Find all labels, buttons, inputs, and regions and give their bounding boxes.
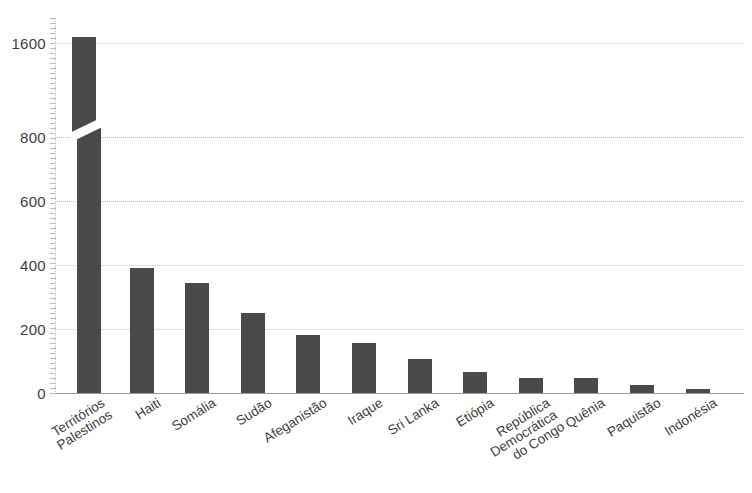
gridline-400 bbox=[55, 265, 744, 266]
x-axis-baseline bbox=[55, 393, 744, 394]
bar-0-lower-segment bbox=[77, 127, 101, 393]
gridline-800 bbox=[55, 137, 744, 138]
bar-8 bbox=[519, 378, 543, 393]
y-axis-tick-label-800: 800 bbox=[2, 129, 46, 146]
bar-2 bbox=[185, 283, 209, 393]
bar-6 bbox=[408, 359, 432, 393]
y-axis-line bbox=[55, 18, 56, 394]
y-axis-tick-label-200: 200 bbox=[2, 321, 46, 338]
y-axis-tick-label-1600: 1600 bbox=[2, 35, 46, 52]
bar-0-upper-segment bbox=[72, 37, 96, 135]
bar-9 bbox=[574, 378, 598, 393]
bar-7 bbox=[463, 372, 487, 393]
x-axis-labels: TerritóriosPalestinosHaitiSomáliaSudãoAf… bbox=[0, 396, 752, 493]
bar-5 bbox=[352, 343, 376, 393]
y-axis-tick-label-600: 600 bbox=[2, 193, 46, 210]
bar-chart: 02004006008001600 TerritóriosPalestinosH… bbox=[0, 0, 752, 493]
bar-10 bbox=[630, 385, 654, 393]
bar-4 bbox=[296, 335, 320, 393]
y-axis-tick-label-400: 400 bbox=[2, 257, 46, 274]
plot-area: 02004006008001600 bbox=[0, 0, 752, 400]
gridline-1600 bbox=[55, 43, 744, 44]
bar-3 bbox=[241, 313, 265, 393]
gridline-600 bbox=[55, 201, 744, 202]
bar-1 bbox=[130, 268, 154, 393]
gridline-200 bbox=[55, 329, 744, 330]
